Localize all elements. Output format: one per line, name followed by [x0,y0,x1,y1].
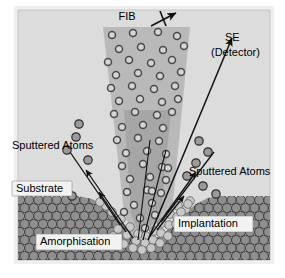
label-sputtered-atoms-right: Sputtered Atoms [189,165,271,177]
label-implantation: Implantation [178,217,238,229]
fib-schematic-diagram: FIB SE (Detector) Sputtered Atoms Sputte… [0,0,285,278]
label-sputtered-atoms-left: Sputtered Atoms [12,139,94,151]
label-substrate: Substrate [16,182,63,194]
label-se: SE [225,31,240,43]
label-detector: (Detector) [211,46,260,58]
figure-root: FIB SE (Detector) Sputtered Atoms Sputte… [0,0,285,278]
label-amorphisation: Amorphisation [40,235,110,247]
label-fib: FIB [118,10,135,22]
